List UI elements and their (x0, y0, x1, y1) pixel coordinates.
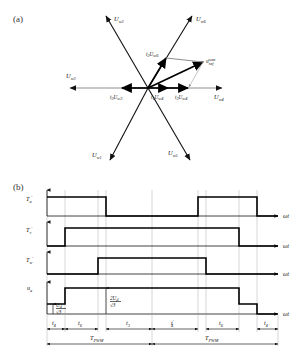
label-Uw6: Uw6 (196, 15, 206, 24)
interval-label-5: t4 (264, 319, 269, 328)
interval-label-2: t3 (126, 319, 130, 328)
Tw-label: Tw′ (26, 256, 33, 265)
label-t3Uw3: t3Uw3 (110, 94, 122, 101)
amplitude-label-level2-den: √3 (110, 302, 116, 308)
period-dimensions: TPWM TPWM (47, 332, 278, 346)
label-t2Uw6: t2Uw6 (146, 51, 159, 58)
interval-label-4: t6 (219, 319, 224, 328)
Tv-waveform (47, 228, 278, 246)
panel-b: Tu′ ωt Tv′ ωt Tw′ (0, 178, 300, 349)
panel-a: Uw2 Uw6 Uw3 Uw4 Uw1 Uw5 t2Uw6 t1Uw4 (0, 0, 300, 178)
axis-vector-Uw2 (106, 16, 148, 88)
guide-top (166, 58, 203, 62)
label-Uw1: Uw1 (92, 151, 102, 160)
amplitude-label-level1-den: √3 (56, 309, 62, 315)
label-t1Uw4: t1Uw4 (151, 94, 164, 101)
signal-ua: ua ωt Ud √3 2Ud √3 (27, 282, 289, 317)
panel-a-label: (a) (13, 14, 23, 24)
timing-diagram-svg: Tu′ ωt Tv′ ωt Tw′ (0, 178, 300, 349)
label-Uw5: Uw5 (168, 149, 178, 158)
ua-axis-label: ωt (283, 310, 289, 317)
Tv-label: Tv′ (26, 226, 32, 235)
period-label-0: TPWM (90, 334, 104, 343)
Tw-waveform (47, 258, 278, 274)
vector-diagram-svg: Uw2 Uw6 Uw3 Uw4 Uw1 Uw5 t2Uw6 t1Uw4 (0, 0, 300, 178)
signal-Tw: Tw′ ωt (26, 252, 289, 277)
Tu-axis-label: ωt (283, 212, 289, 219)
construction-guides (166, 58, 203, 87)
interval-dimensions: t4 t6 t3 t′4 t6 t4 (47, 314, 278, 332)
gridlines (47, 190, 257, 314)
figure-root: Uw2 Uw6 Uw3 Uw4 Uw1 Uw5 t2Uw6 t1Uw4 (0, 0, 300, 349)
Tu-waveform (47, 197, 278, 216)
interval-label-0: t4 (52, 319, 57, 328)
label-t3Uw4: t3Uw4 (175, 94, 188, 101)
signal-Tu: Tu′ ωt (26, 190, 289, 219)
interval-label-3: t′4 (171, 319, 174, 328)
label-Uw3: Uw3 (66, 72, 76, 81)
Tv-axis-label: ωt (283, 242, 289, 249)
Tu-label: Tu′ (26, 195, 33, 204)
ua-label: ua (27, 284, 32, 293)
label-Uw2: Uw2 (114, 15, 124, 24)
label-Uw4: Uw4 (214, 93, 224, 102)
label-uref-com: ucomref (206, 58, 215, 66)
interval-label-1: t6 (78, 319, 83, 328)
signal-Tv: Tv′ ωt (26, 222, 289, 249)
Tw-axis-label: ωt (283, 270, 289, 277)
ua-waveform (47, 288, 278, 314)
period-label-1: TPWM (205, 334, 219, 343)
panel-b-label: (b) (13, 182, 24, 192)
